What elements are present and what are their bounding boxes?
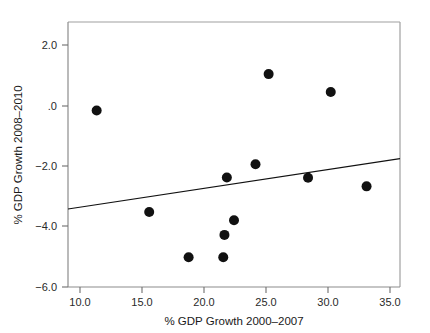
scatter-chart: 2.0 .0 −2.0 −4.0 −6.0 10.0 15.0 20.0 25.… [0, 0, 430, 333]
data-point [250, 159, 260, 169]
x-axis-ticks [80, 287, 390, 293]
x-tick-label: 10.0 [69, 296, 90, 308]
y-tick-label: .0 [48, 100, 57, 112]
y-axis-tick-labels: 2.0 .0 −2.0 −4.0 −6.0 [35, 39, 57, 293]
data-point [362, 181, 372, 191]
x-tick-label: 25.0 [255, 296, 276, 308]
x-axis-title: % GDP Growth 2000–2007 [164, 315, 303, 327]
y-tick-label: 2.0 [42, 39, 57, 51]
y-tick-label: −4.0 [35, 220, 57, 232]
plot-frame [68, 22, 400, 287]
x-tick-label: 30.0 [317, 296, 338, 308]
data-points-group [92, 69, 372, 262]
data-point [92, 105, 102, 115]
data-point [218, 252, 228, 262]
data-point [229, 215, 239, 225]
y-tick-label: −6.0 [35, 281, 57, 293]
x-axis-tick-labels: 10.0 15.0 20.0 25.0 30.0 35.0 [69, 296, 400, 308]
data-point [219, 230, 229, 240]
x-tick-label: 35.0 [379, 296, 400, 308]
y-axis-title: % GDP Growth 2008–2010 [12, 85, 24, 224]
regression-line-group [68, 159, 400, 209]
data-point [184, 252, 194, 262]
data-point [303, 173, 313, 183]
y-tick-label: −2.0 [35, 160, 57, 172]
data-point [264, 69, 274, 79]
x-tick-label: 15.0 [131, 296, 152, 308]
data-point [326, 87, 336, 97]
regression-line [68, 159, 400, 209]
y-axis-ticks [62, 45, 68, 287]
data-point [222, 172, 232, 182]
data-point [144, 207, 154, 217]
chart-canvas: 2.0 .0 −2.0 −4.0 −6.0 10.0 15.0 20.0 25.… [0, 0, 430, 333]
x-tick-label: 20.0 [193, 296, 214, 308]
